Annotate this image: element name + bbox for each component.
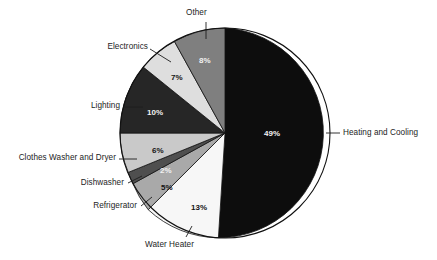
slice-value-lighting: 10% xyxy=(147,108,163,117)
callout-label-lighting: Lighting xyxy=(30,101,120,111)
slice-value-refrigerator: 5% xyxy=(161,183,173,192)
callout-label-other: Other xyxy=(186,8,207,18)
slice-value-water-heater: 13% xyxy=(191,203,207,212)
slice-value-dishwasher: 2% xyxy=(160,166,172,175)
callout-label-dishwasher: Dishwasher xyxy=(38,178,124,188)
callout-label-clothes-washer-and-dryer: Clothes Washer and Dryer xyxy=(8,153,116,163)
pie-chart: Other Electronics Lighting Clothes Washe… xyxy=(0,0,437,260)
slice-value-electronics: 7% xyxy=(171,73,183,82)
slice-value-other: 8% xyxy=(199,56,211,65)
slice-value-clothes-washer-and-dryer: 6% xyxy=(152,146,164,155)
callout-label-water-heater: Water Heater xyxy=(145,240,194,250)
callout-label-electronics: Electronics xyxy=(46,42,148,52)
callout-label-refrigerator: Refrigerator xyxy=(48,201,137,211)
slice-value-heating-and-cooling: 49% xyxy=(264,129,280,138)
callout-label-heating-and-cooling: Heating and Cooling xyxy=(343,128,418,138)
